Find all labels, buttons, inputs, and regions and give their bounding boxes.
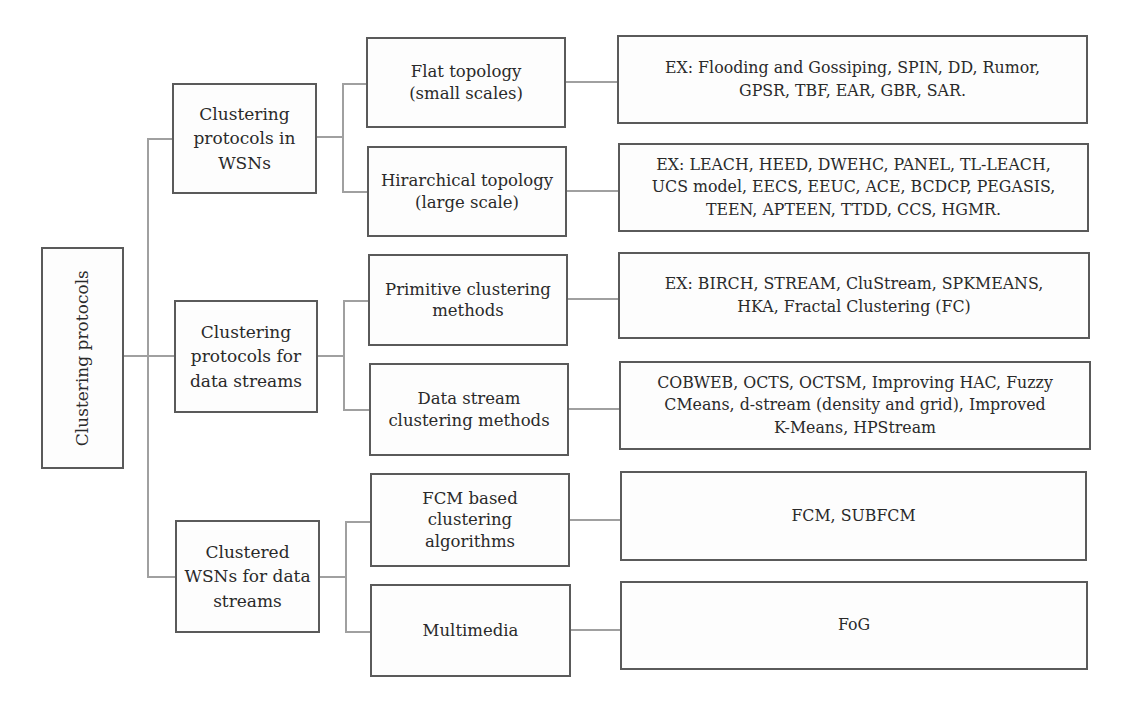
node-clustered-wsns-for-data-streams: Clustered WSNs for data streams	[175, 520, 320, 633]
node-clustering-protocols-for-data-streams: Clustering protocols for data streams	[174, 300, 318, 413]
examples-multimedia: FoG	[620, 581, 1088, 670]
examples-text: COBWEB, OCTS, OCTSM, Improving HAC, Fuzz…	[657, 372, 1053, 438]
node-multimedia: Multimedia	[370, 584, 571, 677]
examples-text: FCM, SUBFCM	[791, 505, 915, 527]
node-label: Hirarchical topology (large scale)	[381, 170, 553, 213]
examples-hierarchical-topology: EX: LEACH, HEED, DWEHC, PANEL, TL-LEACH,…	[618, 143, 1089, 232]
node-hierarchical-topology: Hirarchical topology (large scale)	[367, 146, 567, 237]
node-fcm-based-clustering-algorithms: FCM based clustering algorithms	[370, 473, 570, 567]
examples-fcm-based: FCM, SUBFCM	[620, 471, 1087, 561]
examples-text: FoG	[838, 614, 870, 636]
node-primitive-clustering-methods: Primitive clustering methods	[368, 254, 568, 346]
examples-text: EX: LEACH, HEED, DWEHC, PANEL, TL-LEACH,…	[652, 154, 1056, 220]
root-node-clustering-protocols: Clustering protocols	[41, 247, 124, 469]
node-label: Clustering protocols for data streams	[190, 320, 302, 394]
root-node-label: Clustering protocols	[72, 270, 92, 446]
node-data-stream-clustering-methods: Data stream clustering methods	[369, 363, 569, 456]
node-label: Data stream clustering methods	[388, 388, 549, 431]
examples-data-stream-clustering: COBWEB, OCTS, OCTSM, Improving HAC, Fuzz…	[619, 361, 1091, 450]
node-label: FCM based clustering algorithms	[422, 488, 517, 552]
examples-primitive-clustering: EX: BIRCH, STREAM, CluStream, SPKMEANS, …	[618, 252, 1090, 339]
node-label: Clustering protocols in WSNs	[193, 102, 295, 176]
clustering-protocols-diagram: Clustering protocols Clustering protocol…	[0, 0, 1128, 708]
node-clustering-protocols-in-wsns: Clustering protocols in WSNs	[172, 83, 317, 194]
node-label: Flat topology (small scales)	[409, 61, 523, 104]
node-label: Primitive clustering methods	[385, 279, 551, 322]
node-label: Multimedia	[423, 620, 519, 641]
examples-text: EX: BIRCH, STREAM, CluStream, SPKMEANS, …	[665, 273, 1043, 317]
node-label: Clustered WSNs for data streams	[184, 540, 310, 614]
examples-text: EX: Flooding and Gossiping, SPIN, DD, Ru…	[665, 57, 1040, 101]
node-flat-topology: Flat topology (small scales)	[366, 37, 566, 128]
examples-flat-topology: EX: Flooding and Gossiping, SPIN, DD, Ru…	[617, 35, 1088, 124]
